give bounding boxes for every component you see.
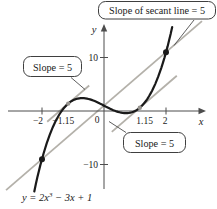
callout-tangent-slope-left-label: Slope = 5 [33, 62, 72, 73]
y-tick-label-10: 10 [89, 53, 99, 63]
y-axis-label: y [91, 24, 97, 35]
leader-line-right-callout [109, 122, 126, 133]
y-tick-label-neg10: −10 [83, 160, 98, 170]
figure-canvas: y x 0 −2 2 −1.15 1.15 10 −10 Slope of se… [0, 0, 217, 209]
x-axis-label: x [198, 116, 204, 127]
secant-point-left [39, 156, 45, 162]
x-point-label-neg115: −1.15 [52, 116, 74, 126]
secant-point-right [163, 49, 169, 55]
function-curve [34, 27, 172, 191]
tangent-point-right [138, 106, 142, 110]
leader-line-secant-callout [174, 20, 194, 46]
equation-label: y = 2x3 − 3x + 1 [21, 191, 92, 203]
y-axis-arrowhead-icon [101, 24, 107, 32]
callout-tangent-slope-right-label: Slope = 5 [135, 138, 174, 149]
x-axis-arrowhead-icon [199, 108, 207, 114]
x-point-label-115: 1.15 [136, 116, 153, 126]
origin-label: 0 [95, 115, 100, 125]
callout-secant-slope-label: Slope of secant line = 5 [109, 5, 205, 16]
x-tick-label-neg2: −2 [33, 116, 43, 126]
graph-svg: y x 0 −2 2 −1.15 1.15 10 −10 Slope of se… [0, 0, 217, 209]
leader-line-left-callout [71, 78, 85, 90]
x-tick-label-2: 2 [163, 116, 168, 126]
tangent-point-left [66, 101, 70, 105]
